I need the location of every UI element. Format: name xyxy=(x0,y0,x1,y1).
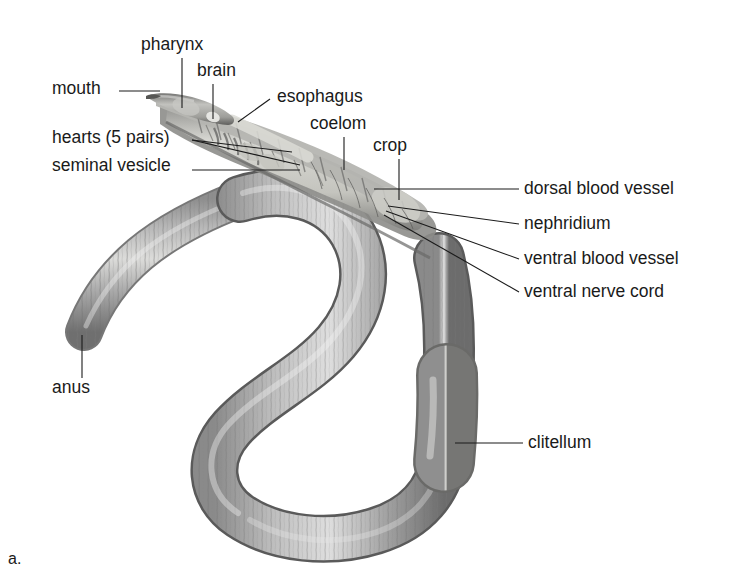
label-crop: crop xyxy=(373,137,407,155)
label-hearts-5-pairs: hearts (5 pairs) xyxy=(52,129,170,147)
label-clitellum: clitellum xyxy=(528,434,591,452)
label-pharynx: pharynx xyxy=(141,36,203,54)
label-ventral-nerve-cord: ventral nerve cord xyxy=(524,283,664,301)
figure-caption: a. xyxy=(8,550,21,568)
worm-tail-segment xyxy=(84,199,240,332)
earthworm-anatomy-figure: mouth pharynx brain esophagus hearts (5 … xyxy=(0,0,741,587)
label-anus: anus xyxy=(52,379,90,397)
leader-esophagus xyxy=(238,99,270,122)
clitellum-band xyxy=(430,374,447,462)
label-coelom: coelom xyxy=(310,115,366,133)
label-mouth: mouth xyxy=(52,80,101,98)
label-esophagus: esophagus xyxy=(277,88,363,106)
label-ventral-blood-vessel: ventral blood vessel xyxy=(524,250,679,268)
label-dorsal-blood-vessel: dorsal blood vessel xyxy=(524,180,674,198)
label-nephridium: nephridium xyxy=(524,215,611,233)
label-brain: brain xyxy=(197,62,236,80)
worm-main-body xyxy=(211,188,444,540)
label-seminal-vesicle: seminal vesicle xyxy=(52,157,171,175)
